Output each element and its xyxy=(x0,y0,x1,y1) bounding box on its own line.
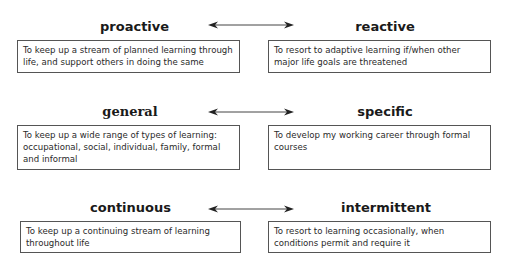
row3-double-arrow-icon xyxy=(208,204,294,214)
row2-double-arrow-icon xyxy=(208,107,294,117)
row3-left-title: continuous xyxy=(90,200,170,215)
row2-left-title: general xyxy=(95,104,165,119)
row1-left-description-box: To keep up a stream of planned learning … xyxy=(17,40,240,73)
row2-right-title: specific xyxy=(350,104,420,119)
row3-left-description-box: To keep up a continuing stream of learni… xyxy=(20,221,241,253)
row1-double-arrow-icon xyxy=(208,20,294,30)
row1-right-description-box: To resort to adaptive learning if/when o… xyxy=(268,40,491,73)
row1-right-title: reactive xyxy=(350,19,420,34)
row2-right-description-box: To develop my working career through for… xyxy=(268,125,491,170)
row3-right-title: intermittent xyxy=(336,200,436,215)
row1-left-title: proactive xyxy=(100,19,160,34)
row2-left-description-box: To keep up a wide range of types of lear… xyxy=(17,125,240,170)
row3-right-description-box: To resort to learning occasionally, when… xyxy=(268,221,491,253)
